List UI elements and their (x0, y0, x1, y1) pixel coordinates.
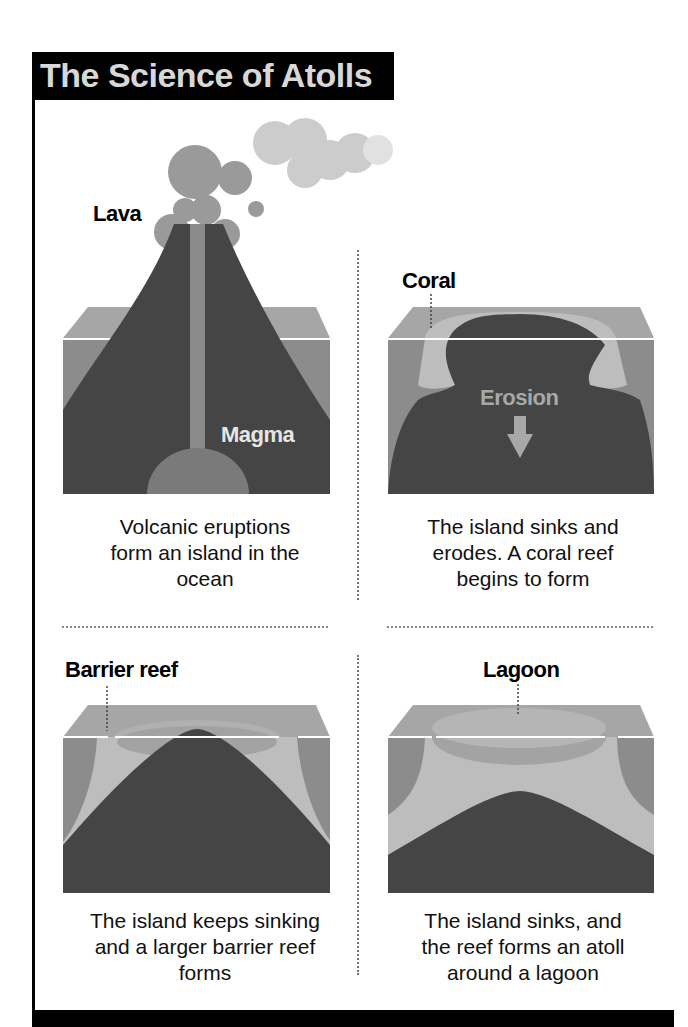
caption-stage-4: The island sinks, and the reef forms an … (368, 908, 678, 986)
label-lagoon: Lagoon (483, 657, 559, 683)
lagoon-atoll-illustration (0, 0, 688, 1027)
